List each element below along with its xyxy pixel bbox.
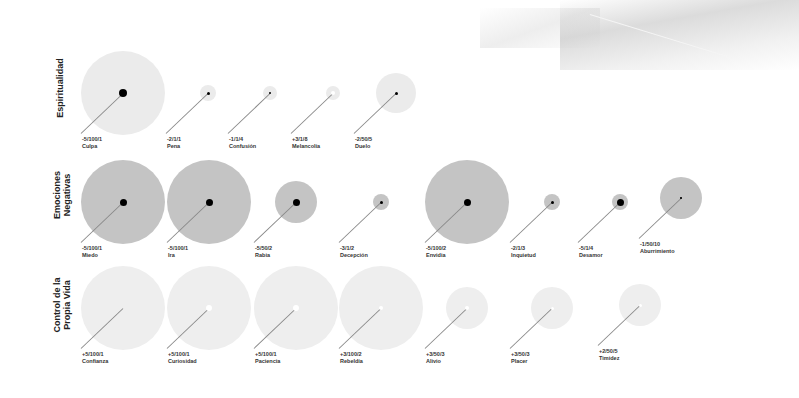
- row-label: Control de la Propia Vida: [52, 265, 72, 345]
- center-dot-white: [206, 305, 212, 311]
- bubble-name: Placer: [511, 358, 530, 365]
- center-dot-dark: [680, 197, 682, 199]
- center-dot-white: [331, 91, 335, 95]
- center-dot-dark: [120, 199, 127, 206]
- leader-line: [291, 93, 334, 134]
- center-dot-dark: [395, 92, 398, 95]
- bubble-label: +5/100/1Curiosidad: [168, 351, 197, 365]
- row-label: Emociones Negativas: [52, 155, 72, 235]
- bubble-name: Timidez: [599, 355, 619, 362]
- center-dot-dark: [551, 201, 554, 204]
- bubble-code: -5/100/1: [82, 136, 102, 143]
- bubble-name: Duelo: [355, 143, 372, 150]
- center-dot-dark: [119, 89, 127, 97]
- bubble-name: Paciencia: [255, 358, 280, 365]
- bubble-label: -1/1/4Confusión: [229, 136, 256, 150]
- bubble-label: -1/50/10Aburrimiento: [640, 241, 675, 255]
- bubble-label: -5/100/1Miedo: [82, 245, 102, 259]
- center-dot-dark: [293, 199, 300, 206]
- row-label: Espiritualidad: [55, 48, 65, 128]
- bubble-code: -1/50/10: [640, 241, 675, 248]
- bubble-name: Culpa: [82, 143, 102, 150]
- bubble-code: -5/100/1: [82, 245, 102, 252]
- leader-line: [578, 202, 621, 243]
- bubble-label: +3/100/2Rebeldía: [340, 351, 363, 365]
- center-dot-dark: [464, 199, 471, 206]
- bubble-name: Curiosidad: [168, 358, 197, 365]
- bubble-name: Pena: [167, 143, 181, 150]
- leader-line: [354, 93, 397, 134]
- bubble-code: -2/50/5: [355, 136, 372, 143]
- bubble-label: +5/100/1Confianza: [82, 351, 108, 365]
- bubble-name: Miedo: [82, 252, 102, 259]
- center-dot-white: [293, 305, 299, 311]
- center-dot-white: [465, 306, 469, 310]
- bubble-label: -2/50/5Duelo: [355, 136, 372, 150]
- bubble-code: +3/50/3: [511, 351, 530, 358]
- bubble-label: +2/50/5Timidez: [599, 348, 619, 362]
- leader-line: [166, 93, 209, 134]
- bubble-code: -5/100/2: [426, 245, 446, 252]
- bubble-label: +5/100/1Paciencia: [255, 351, 280, 365]
- bubble-code: +5/100/1: [82, 351, 108, 358]
- bubble-label: -5/100/2Envidia: [426, 245, 446, 259]
- bubble-code: -5/100/1: [168, 245, 188, 252]
- center-dot-dark: [207, 92, 210, 95]
- bubble-code: +3/1/8: [292, 136, 320, 143]
- bubble-name: Rebeldía: [340, 358, 363, 365]
- leader-line: [510, 202, 553, 243]
- center-dot-dark: [380, 201, 383, 204]
- bubble-label: -5/100/1Ira: [168, 245, 188, 259]
- bubble-label: -2/1/1Pena: [167, 136, 181, 150]
- bubble-label: -5/1/4Desamor: [579, 245, 603, 259]
- bubble-name: Alivio: [426, 358, 445, 365]
- bubble-name: Rabia: [255, 252, 272, 259]
- bubble-name: Ira: [168, 252, 188, 259]
- bubble-code: +3/100/2: [340, 351, 363, 358]
- decorative-gradient: [560, 0, 799, 70]
- bubble-name: Envidia: [426, 252, 446, 259]
- bubble-label: -5/50/2Rabia: [255, 245, 272, 259]
- bubble-code: +5/100/1: [168, 351, 197, 358]
- bubble-name: Inquietud: [511, 252, 536, 259]
- center-dot-dark: [206, 199, 213, 206]
- leader-line: [228, 93, 271, 134]
- bubble-label: +3/50/3Placer: [511, 351, 530, 365]
- bubble-name: Desamor: [579, 252, 603, 259]
- center-dot-white: [639, 304, 642, 307]
- bubble-code: -5/50/2: [255, 245, 272, 252]
- bubble-code: +5/100/1: [255, 351, 280, 358]
- center-dot-white: [551, 307, 554, 310]
- bubble-label: -3/1/2Decepción: [340, 245, 368, 259]
- bubble-label: +3/50/3Alivio: [426, 351, 445, 365]
- bubble-code: +2/50/5: [599, 348, 619, 355]
- bubble-code: -5/1/4: [579, 245, 603, 252]
- bubble-code: -2/1/1: [167, 136, 181, 143]
- bubble-name: Aburrimiento: [640, 248, 675, 255]
- bubble-code: -2/1/3: [511, 245, 536, 252]
- bubble-name: Confusión: [229, 143, 256, 150]
- bubble-code: +3/50/3: [426, 351, 445, 358]
- center-dot-dark: [617, 199, 624, 206]
- bubble-code: -3/1/2: [340, 245, 368, 252]
- leader-line: [339, 202, 382, 243]
- center-dot-dark: [269, 92, 271, 94]
- bubble-name: Decepción: [340, 252, 368, 259]
- bubble-name: Melancolía: [292, 143, 320, 150]
- bubble-label: -5/100/1Culpa: [82, 136, 102, 150]
- bubble-name: Confianza: [82, 358, 108, 365]
- bubble-label: -2/1/3Inquietud: [511, 245, 536, 259]
- bubble-code: -1/1/4: [229, 136, 256, 143]
- center-dot-white: [379, 306, 383, 310]
- bubble-label: +3/1/8Melancolía: [292, 136, 320, 150]
